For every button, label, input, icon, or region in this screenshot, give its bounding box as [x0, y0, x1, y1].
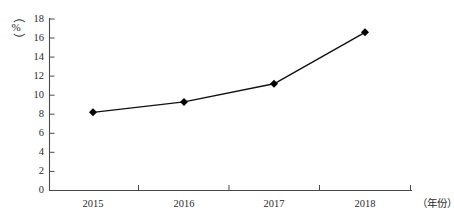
line-chart: （ % ） 18 16 14 12 10 8 6 4 2 0: [0, 0, 454, 223]
x-axis-tick-labels: 2015 2016 2017 2018 （年份）: [0, 0, 454, 223]
x-tick-label-2018: 2018: [355, 198, 376, 209]
x-tick-label-2017: 2017: [264, 198, 285, 209]
x-tick-label-2016: 2016: [174, 198, 195, 209]
x-axis-unit-label: （年份）: [417, 198, 454, 209]
x-tick-label-2015: 2015: [83, 198, 104, 209]
